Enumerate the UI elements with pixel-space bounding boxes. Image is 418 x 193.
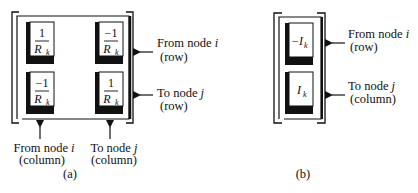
- numerator: −1: [36, 76, 49, 90]
- caption-b: (b): [296, 167, 311, 181]
- numerator: 1: [39, 26, 45, 40]
- column-label-column: (column): [91, 153, 137, 167]
- matrix-stamp-diagram: 1 R k −1 R k −1 R k 1 R: [0, 0, 418, 193]
- matrix-cell-ij: −1 R k: [95, 22, 123, 64]
- matrix-cell-ji: −1 R k: [26, 72, 54, 114]
- subscript: k: [46, 48, 50, 57]
- matrix-cell-ii: 1 R k: [26, 22, 54, 64]
- denominator: R: [33, 42, 42, 56]
- denominator: R: [102, 42, 111, 56]
- cell-value: −I: [291, 34, 304, 48]
- subscript: k: [46, 98, 50, 107]
- matrix-cell-jj: 1 R k: [95, 72, 123, 114]
- conductance-matrix-stamp: 1 R k −1 R k −1 R k 1 R: [12, 12, 219, 181]
- row-label-row: (row): [350, 40, 378, 54]
- left-bracket: [12, 12, 19, 123]
- numerator: 1: [108, 76, 114, 90]
- row-label-column: (column): [350, 92, 396, 106]
- row-label-to-node-j: To node j: [348, 79, 396, 93]
- subscript: k: [115, 48, 119, 57]
- subscript: k: [115, 98, 119, 107]
- left-bracket: [274, 13, 282, 123]
- vector-cell-i: −I k: [285, 23, 313, 65]
- vector-cell-j: I k: [285, 72, 313, 114]
- row-label-row: (row): [160, 99, 188, 113]
- numerator: −1: [105, 26, 118, 40]
- subscript: k: [304, 41, 308, 50]
- row-label-row: (row): [160, 50, 188, 64]
- caption-a: (a): [63, 167, 77, 181]
- column-label-column: (column): [19, 153, 65, 167]
- row-label-from-node-i: From node i: [157, 36, 219, 50]
- row-label-from-node-i: From node i: [348, 27, 410, 41]
- row-label-to-node-j: To node j: [157, 86, 205, 100]
- denominator: R: [33, 92, 42, 106]
- subscript: k: [303, 90, 307, 99]
- denominator: R: [102, 92, 111, 106]
- current-vector-stamp: −I k I k From node i (row) To node j (co…: [274, 13, 410, 181]
